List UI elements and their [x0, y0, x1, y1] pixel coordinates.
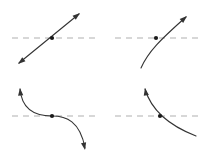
- crossing-point-marker: [50, 114, 54, 118]
- crossing-point-marker: [50, 36, 54, 40]
- figure-background: [0, 0, 207, 161]
- curve-diagram-canvas: [0, 0, 207, 161]
- crossing-point-marker: [158, 114, 162, 118]
- crossing-point-marker: [154, 36, 158, 40]
- figure-root: [0, 0, 207, 161]
